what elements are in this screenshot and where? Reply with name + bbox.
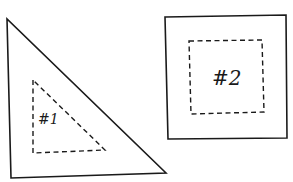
triangle-figure-1: #1 <box>7 19 166 178</box>
square-label: #2 <box>212 66 241 90</box>
triangle-outer-outline <box>7 19 166 178</box>
diagram-canvas: #1 #2 <box>0 0 293 182</box>
square-figure-2: #2 <box>165 15 287 139</box>
triangle-label: #1 <box>38 111 59 127</box>
